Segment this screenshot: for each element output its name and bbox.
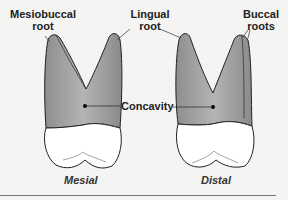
label-line: Buccal (236, 8, 286, 20)
mesial-tooth (44, 29, 130, 168)
distal-root (176, 34, 252, 126)
label-line: Lingual (126, 8, 174, 20)
distal-tooth (160, 29, 254, 167)
label-concavity: Concavity (121, 100, 173, 112)
caption-mesial: Mesial (64, 174, 98, 186)
mesial-crown (44, 124, 121, 168)
divider-rule (0, 195, 276, 196)
label-line: root (8, 20, 78, 32)
caption-distal: Distal (201, 174, 231, 186)
label-line: roots (236, 20, 286, 32)
label-lingual-root: Lingual root (126, 8, 174, 32)
label-line: Mesiobuccal (8, 8, 78, 20)
label-line: root (126, 20, 174, 32)
label-buccal-roots: Buccal roots (236, 8, 286, 32)
label-mesiobuccal-root: Mesiobuccal root (8, 8, 78, 32)
distal-crown (176, 122, 253, 168)
mesial-root (45, 34, 122, 128)
